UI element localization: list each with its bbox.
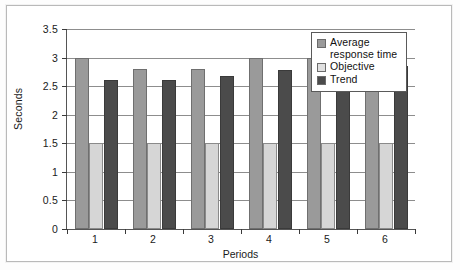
x-tick-mark (241, 229, 242, 234)
x-tick-label: 2 (150, 233, 156, 245)
legend-label-average-response-time: Average response time (330, 37, 401, 60)
y-tick-mark (62, 29, 67, 30)
bar-average-response-time-period-2 (133, 69, 147, 229)
bar-average-response-time-period-1 (75, 58, 89, 229)
bar-objective-period-4 (263, 143, 277, 229)
y-gridline (67, 200, 415, 201)
bar-average-response-time-period-3 (191, 69, 205, 229)
y-gridline (67, 115, 415, 116)
y-gridline (67, 29, 415, 30)
legend-label-trend: Trend (330, 74, 358, 86)
legend-item-trend: Trend (317, 74, 401, 86)
bar-objective-period-3 (205, 143, 219, 229)
x-axis-title: Periods (66, 248, 415, 260)
x-tick-mark (67, 229, 68, 234)
bar-trend-period-2 (162, 80, 176, 229)
bar-objective-period-1 (89, 143, 103, 229)
y-tick-label: 0 (14, 223, 58, 235)
chart-plot-area: Seconds Periods Average response time Ob… (14, 12, 446, 258)
y-tick-label: 3 (14, 52, 58, 64)
y-tick-label: 0.5 (14, 194, 58, 206)
y-tick-label: 2.5 (14, 80, 58, 92)
x-tick-mark (125, 229, 126, 234)
bar-trend-period-5 (336, 70, 350, 229)
x-tick-label: 1 (92, 233, 98, 245)
chart-figure: Seconds Periods Average response time Ob… (0, 0, 460, 270)
legend-item-average-response-time: Average response time (317, 37, 401, 60)
x-tick-label: 3 (208, 233, 214, 245)
x-tick-mark (299, 229, 300, 234)
bar-trend-period-1 (104, 80, 118, 229)
legend-swatch-trend (317, 76, 326, 85)
x-tick-label: 4 (266, 233, 272, 245)
y-tick-label: 2 (14, 109, 58, 121)
bar-objective-period-5 (321, 143, 335, 229)
y-tick-mark (62, 115, 67, 116)
y-tick-mark (62, 200, 67, 201)
x-tick-label: 6 (382, 233, 388, 245)
x-tick-mark (415, 229, 416, 234)
x-tick-label: 5 (324, 233, 330, 245)
legend-label-objective: Objective (330, 61, 375, 73)
y-tick-mark (62, 172, 67, 173)
y-tick-mark (62, 58, 67, 59)
y-tick-label: 1.5 (14, 137, 58, 149)
bar-trend-period-3 (220, 76, 234, 229)
legend-swatch-objective (317, 63, 326, 72)
y-tick-mark (62, 86, 67, 87)
bar-objective-period-6 (379, 143, 393, 229)
x-tick-mark (357, 229, 358, 234)
y-gridline (67, 143, 415, 144)
y-gridline (67, 172, 415, 173)
legend-swatch-average-response-time (317, 39, 326, 48)
y-tick-label: 3.5 (14, 23, 58, 35)
x-tick-mark (183, 229, 184, 234)
y-tick-mark (62, 143, 67, 144)
y-tick-label: 1 (14, 166, 58, 178)
legend-item-objective: Objective (317, 61, 401, 73)
bar-objective-period-2 (147, 143, 161, 229)
bar-average-response-time-period-4 (249, 58, 263, 229)
chart-legend: Average response time Objective Trend (311, 32, 407, 92)
bar-trend-period-4 (278, 70, 292, 229)
